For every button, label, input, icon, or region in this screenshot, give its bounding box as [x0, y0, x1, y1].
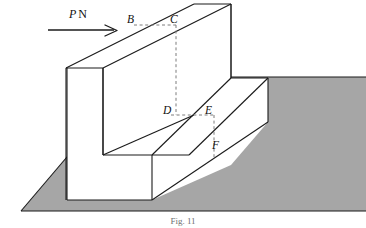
point-label-d: D [163, 105, 171, 117]
load-unit: N [78, 7, 87, 21]
point-label-f: F [212, 140, 219, 152]
load-label: PN [69, 8, 87, 20]
load-symbol: P [69, 7, 76, 21]
point-label-c: C [170, 14, 178, 26]
point-label-b: B [127, 14, 134, 26]
figure-drawing [0, 0, 366, 228]
figure-container: PN B C D E F Fig. 11 [0, 0, 366, 228]
point-label-e: E [205, 105, 212, 117]
figure-caption: Fig. 11 [0, 216, 366, 226]
